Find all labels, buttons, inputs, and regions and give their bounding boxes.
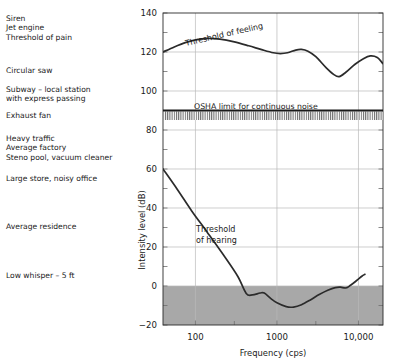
osha-limit-label: OSHA limit for continuous noise bbox=[194, 102, 318, 111]
x-tick-label: 10,000 bbox=[343, 332, 373, 342]
x-tick-label: 100 bbox=[187, 332, 203, 342]
osha-reference-line bbox=[163, 111, 383, 121]
inaudible-shaded-region bbox=[163, 286, 383, 325]
x-axis-title: Frequency (cps) bbox=[240, 348, 307, 358]
threshold-of-hearing-annotation-line1: Threshold bbox=[195, 225, 235, 234]
y-tick-label: 20 bbox=[146, 242, 157, 252]
y-axis-title: Intensity level (dB) bbox=[137, 190, 147, 269]
y-tick-labels: 140120100806040200−20 bbox=[139, 8, 157, 330]
threshold-of-hearing-annotation-line2: of hearing bbox=[196, 236, 237, 245]
y-tick-label: 80 bbox=[146, 125, 157, 135]
noise-level-chart-figure: Siren Jet engine Threshold of pain Circu… bbox=[0, 0, 393, 364]
y-tick-label: 100 bbox=[141, 86, 157, 96]
y-tick-label: 140 bbox=[141, 8, 157, 18]
y-tick-label: 40 bbox=[146, 203, 157, 213]
chart-svg: 140120100806040200−20 100100010,000 Inte… bbox=[0, 0, 393, 364]
y-tick-label: 120 bbox=[141, 47, 157, 57]
x-tick-labels: 100100010,000 bbox=[187, 332, 373, 342]
y-tick-label: 60 bbox=[146, 164, 157, 174]
x-tick-label: 1000 bbox=[266, 332, 288, 342]
y-tick-label: −20 bbox=[139, 320, 157, 330]
chart-plot-area: 140120100806040200−20 100100010,000 Inte… bbox=[0, 0, 393, 364]
y-tick-label: 0 bbox=[152, 281, 157, 291]
